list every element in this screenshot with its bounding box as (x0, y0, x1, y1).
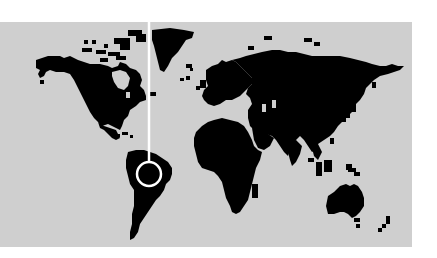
world-map (0, 0, 437, 258)
marker-ring-icon[interactable] (137, 162, 161, 186)
